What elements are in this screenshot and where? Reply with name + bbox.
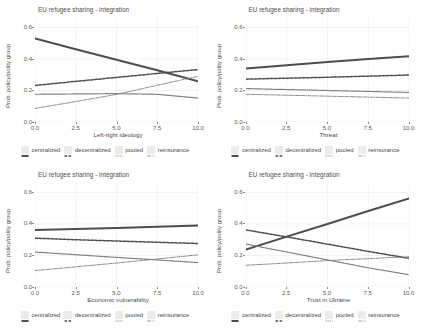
y-tick-mark <box>243 122 245 123</box>
y-axis-label: Prob. policy/polity group <box>213 191 225 291</box>
y-tick-label: 0.4 <box>24 56 32 62</box>
x-tick-mark <box>198 287 199 289</box>
legend-item-decentralized[interactable]: decentralized <box>275 146 321 154</box>
legend-key-icon <box>358 146 366 154</box>
chart-legend: centralizeddecentralizedpooledreinsuranc… <box>211 308 421 322</box>
y-axis-label: Prob. policy/polity group <box>213 26 225 126</box>
x-axis-ticks: 0.02.55.07.510.0 <box>35 122 198 132</box>
legend-item-reinsurance[interactable]: reinsurance <box>358 146 400 154</box>
x-tick-mark <box>117 122 118 124</box>
y-tick-label: 0.2 <box>24 252 32 258</box>
x-tick-mark <box>286 122 287 124</box>
legend-key-icon <box>231 311 239 319</box>
legend-label: decentralized <box>75 147 111 153</box>
chart-legend: centralizeddecentralizedpooledreinsuranc… <box>0 143 210 157</box>
chart-panel-bottom-right: EU refugee sharing - integrationProb. po… <box>211 165 421 329</box>
plot-svg <box>35 183 198 287</box>
legend-item-centralized[interactable]: centralized <box>21 146 61 154</box>
x-tick-label: 0.0 <box>241 290 249 296</box>
x-tick-mark <box>246 287 247 289</box>
x-tick-mark <box>35 287 36 289</box>
panel-title: EU refugee sharing - integration <box>249 171 340 178</box>
y-tick-label: 0.6 <box>234 24 242 30</box>
plot-area <box>246 18 409 122</box>
x-tick-mark <box>117 287 118 289</box>
y-tick-mark <box>32 122 34 123</box>
x-tick-mark <box>286 287 287 289</box>
x-tick-label: 2.5 <box>72 125 80 131</box>
legend-item-reinsurance[interactable]: reinsurance <box>147 146 189 154</box>
y-tick-label: 0.2 <box>24 87 32 93</box>
y-tick-label: 0.6 <box>24 24 32 30</box>
y-axis-label: Prob. policy/polity group <box>2 191 14 291</box>
x-axis-label: Left-right ideology <box>38 131 198 138</box>
chart-legend: centralizeddecentralizedpooledreinsuranc… <box>211 143 421 157</box>
x-tick-mark <box>157 287 158 289</box>
y-tick-mark <box>243 90 245 91</box>
x-tick-label: 7.5 <box>364 290 372 296</box>
x-tick-label: 7.5 <box>153 125 161 131</box>
y-tick-mark <box>32 223 34 224</box>
x-tick-label: 10.0 <box>192 125 204 131</box>
y-tick-label: 0.6 <box>24 189 32 195</box>
x-tick-label: 10.0 <box>403 125 415 131</box>
y-tick-label: 0.4 <box>234 56 242 62</box>
y-tick-label: 0.2 <box>234 252 242 258</box>
x-tick-label: 2.5 <box>72 290 80 296</box>
x-tick-mark <box>327 122 328 124</box>
plot-svg <box>35 18 198 122</box>
chart-panel-bottom-left: EU refugee sharing - integrationProb. po… <box>0 165 210 329</box>
legend-label: centralized <box>31 312 60 318</box>
y-tick-mark <box>243 192 245 193</box>
legend-item-pooled[interactable]: pooled <box>115 146 144 154</box>
y-tick-label: 0.4 <box>24 220 32 226</box>
legend-item-decentralized[interactable]: decentralized <box>64 311 110 319</box>
legend-key-icon <box>325 311 333 319</box>
x-tick-label: 2.5 <box>282 290 290 296</box>
legend-key-icon <box>21 146 29 154</box>
legend-key-icon <box>325 146 333 154</box>
x-tick-label: 0.0 <box>241 125 249 131</box>
x-tick-mark <box>76 122 77 124</box>
legend-key-icon <box>147 311 155 319</box>
legend-key-icon <box>64 311 72 319</box>
legend-item-centralized[interactable]: centralized <box>231 146 271 154</box>
legend-item-decentralized[interactable]: decentralized <box>64 146 110 154</box>
legend-label: decentralized <box>285 147 321 153</box>
legend-item-pooled[interactable]: pooled <box>325 311 354 319</box>
legend-item-pooled[interactable]: pooled <box>325 146 354 154</box>
legend-label: decentralized <box>75 312 111 318</box>
x-axis-label: Threat <box>249 131 409 138</box>
x-tick-label: 0.0 <box>31 290 39 296</box>
legend-item-reinsurance[interactable]: reinsurance <box>147 311 189 319</box>
legend-key-icon <box>231 146 239 154</box>
y-tick-label: 0.2 <box>234 87 242 93</box>
x-tick-label: 5.0 <box>112 125 120 131</box>
legend-key-icon <box>115 146 123 154</box>
panel-title: EU refugee sharing - integration <box>38 6 129 13</box>
legend-key-icon <box>275 146 283 154</box>
x-tick-label: 10.0 <box>403 290 415 296</box>
x-tick-mark <box>368 287 369 289</box>
y-tick-mark <box>32 192 34 193</box>
legend-item-decentralized[interactable]: decentralized <box>275 311 321 319</box>
x-tick-label: 7.5 <box>364 125 372 131</box>
y-tick-label: 0.4 <box>234 220 242 226</box>
legend-label: centralized <box>31 147 60 153</box>
x-tick-mark <box>409 122 410 124</box>
x-tick-label: 5.0 <box>112 290 120 296</box>
y-tick-mark <box>243 255 245 256</box>
legend-item-reinsurance[interactable]: reinsurance <box>358 311 400 319</box>
x-axis-ticks: 0.02.55.07.510.0 <box>246 287 409 297</box>
x-tick-mark <box>246 122 247 124</box>
chart-panel-top-left: EU refugee sharing - integrationProb. po… <box>0 0 210 164</box>
legend-item-centralized[interactable]: centralized <box>231 311 271 319</box>
legend-label: pooled <box>336 312 354 318</box>
legend-item-pooled[interactable]: pooled <box>115 311 144 319</box>
x-tick-mark <box>409 287 410 289</box>
plot-area <box>35 18 198 122</box>
y-tick-mark <box>32 255 34 256</box>
legend-label: pooled <box>125 147 143 153</box>
legend-item-centralized[interactable]: centralized <box>21 311 61 319</box>
y-tick-label: 0.6 <box>234 189 242 195</box>
